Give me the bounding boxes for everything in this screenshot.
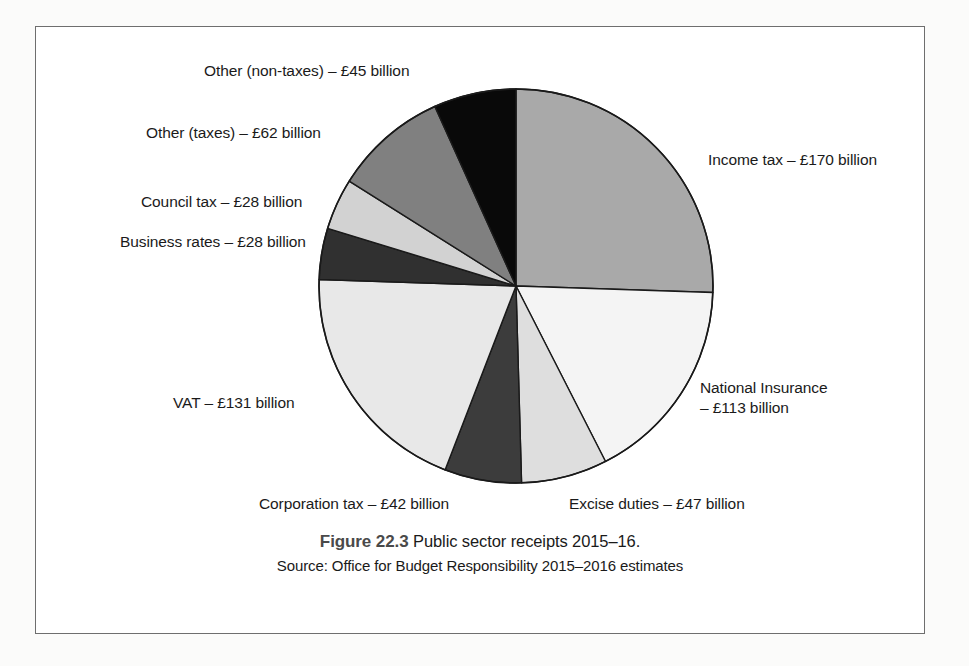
figure-title: Public sector receipts 2015–16. (413, 532, 640, 550)
figure-caption: Figure 22.3 Public sector receipts 2015–… (35, 532, 925, 574)
slice-label-national-insurance-line1: National Insurance (700, 379, 827, 396)
slice-label-vat: VAT – £131 billion (173, 393, 294, 413)
slice-label-corporation-tax: Corporation tax – £42 billion (259, 494, 449, 514)
pie-slice-group (319, 89, 713, 483)
slice-label-national-insurance-line2: – £113 billion (700, 399, 789, 416)
figure-number: Figure 22.3 (320, 532, 409, 551)
slice-label-income-tax: Income tax – £170 billion (708, 150, 877, 170)
caption-line: Figure 22.3 Public sector receipts 2015–… (35, 532, 925, 552)
slice-label-national-insurance: National Insurance – £113 billion (700, 378, 880, 418)
pie-slice-income-tax (516, 89, 713, 293)
slice-label-excise-duties: Excise duties – £47 billion (569, 494, 745, 514)
slice-label-other-non-taxes: Other (non-taxes) – £45 billion (204, 61, 409, 81)
slice-label-council-tax: Council tax – £28 billion (141, 192, 302, 212)
slice-label-business-rates: Business rates – £28 billion (120, 232, 306, 252)
figure-source: Source: Office for Budget Responsibility… (35, 557, 925, 574)
slice-label-other-taxes: Other (taxes) – £62 billion (146, 123, 321, 143)
